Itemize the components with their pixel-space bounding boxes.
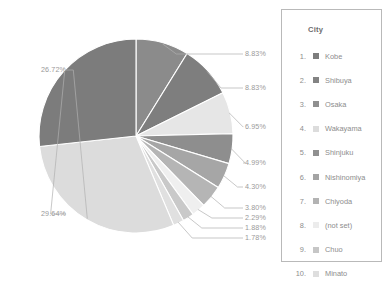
leader-line <box>211 196 243 208</box>
pie-slice[interactable] <box>39 39 136 146</box>
legend-row[interactable]: 1.Kobe <box>282 44 381 68</box>
legend-box: City 1.Kobe2.Shibuya3.Osaka4.Wakayama5.S… <box>281 9 382 262</box>
slice-label-kobe: 29.64% <box>14 210 66 218</box>
legend-row[interactable]: 4.Wakayama <box>282 117 381 141</box>
legend-rank: 4. <box>289 124 306 133</box>
slice-label-large-dark: 26.72% <box>14 66 66 74</box>
legend-rank: 9. <box>289 245 306 254</box>
pie-slice-group <box>39 39 233 233</box>
leader-line <box>198 209 243 218</box>
slice-label-notset: 2.29% <box>245 214 266 222</box>
slice-label-osaka: 8.83% <box>245 84 266 92</box>
legend-rank: 2. <box>289 76 306 85</box>
legend-label: Chuo <box>325 245 381 254</box>
legend-label: Chiyoda <box>325 197 381 206</box>
legend-swatch-icon <box>313 126 319 132</box>
legend-row[interactable]: 5.Shinjuku <box>282 141 381 165</box>
slice-label-shinjuku: 4.99% <box>245 159 266 167</box>
leader-line <box>231 149 245 163</box>
legend-rank: 1. <box>289 52 306 61</box>
legend-rank: 6. <box>289 173 306 182</box>
slice-label-minato: 1.78% <box>245 234 266 242</box>
legend-rank: 7. <box>289 197 306 206</box>
slice-label-shibuya: 8.83% <box>245 50 266 58</box>
legend-title: City <box>308 25 323 34</box>
chart-area: 8.83% 8.83% 6.95% 4.99% 4.30% 3.80% 2.29… <box>0 0 272 272</box>
legend-label: Shinjuku <box>325 148 381 157</box>
leader-line <box>188 217 243 228</box>
slice-label-chuo: 1.88% <box>245 224 266 232</box>
pie-chart-svg <box>0 0 272 272</box>
slice-label-wakayama: 6.95% <box>245 123 266 131</box>
legend-swatch-icon <box>313 101 319 107</box>
legend-rank: 5. <box>289 148 306 157</box>
legend-swatch-icon <box>313 174 319 180</box>
legend-row[interactable]: 10.Minato <box>282 262 381 281</box>
slice-label-nishinomiya: 4.30% <box>245 183 266 191</box>
legend-label: (not set) <box>325 221 381 230</box>
leader-line <box>224 176 244 188</box>
legend-label: Kobe <box>325 52 381 61</box>
legend-row[interactable]: 2.Shibuya <box>282 68 381 92</box>
legend-row[interactable]: 9.Chuo <box>282 238 381 262</box>
legend-label: Minato <box>325 269 381 278</box>
legend-rank: 3. <box>289 100 306 109</box>
legend-swatch-icon <box>313 271 319 277</box>
legend-label: Osaka <box>325 100 381 109</box>
legend-row[interactable]: 8.(not set) <box>282 213 381 237</box>
legend-swatch-icon <box>313 77 319 83</box>
legend-rows: 1.Kobe2.Shibuya3.Osaka4.Wakayama5.Shinju… <box>282 44 381 281</box>
legend-swatch-icon <box>313 150 319 156</box>
legend-swatch-icon <box>313 247 319 253</box>
legend-label: Wakayama <box>325 124 381 133</box>
legend-swatch-icon <box>313 53 319 59</box>
legend-row[interactable]: 3.Osaka <box>282 92 381 116</box>
legend-rank: 10. <box>289 269 306 278</box>
slice-label-chiyoda: 3.80% <box>245 204 266 212</box>
legend-row[interactable]: 6.Nishinomiya <box>282 165 381 189</box>
legend-swatch-icon <box>313 222 319 228</box>
legend-swatch-icon <box>313 198 319 204</box>
legend-label: Nishinomiya <box>325 173 381 182</box>
legend-label: Shibuya <box>325 76 381 85</box>
leader-line <box>178 222 243 238</box>
legend-row[interactable]: 7.Chiyoda <box>282 189 381 213</box>
legend-rank: 8. <box>289 221 306 230</box>
